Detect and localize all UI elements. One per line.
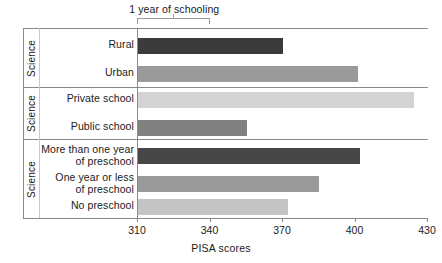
x-tick-label-310: 310	[117, 224, 157, 236]
bracket-right-leg	[209, 18, 210, 24]
x-tick-1	[210, 218, 211, 222]
panel-strip-text-1: Science	[26, 40, 37, 77]
x-tick-0	[137, 218, 138, 222]
bar-no-preschool[interactable]	[138, 199, 288, 215]
category-label-urban: Urban	[105, 67, 134, 79]
bar-private-school[interactable]	[138, 92, 414, 108]
bracket-center-tick	[173, 14, 174, 19]
x-tick-4	[427, 218, 428, 222]
category-label-private-school: Private school	[67, 93, 134, 105]
x-tick-2	[282, 218, 283, 222]
schooling-annotation-bracket	[137, 18, 210, 26]
bar-public-school[interactable]	[138, 120, 247, 136]
x-tick-3	[355, 218, 356, 222]
category-label-one-year-or-less-preschool: One year or less of preschool	[55, 172, 134, 195]
panel-divider-2	[23, 139, 428, 140]
category-label-no-preschool: No preschool	[71, 200, 134, 212]
panel-strip-text-3: Science	[26, 161, 37, 198]
panel-strip-label-2: Science	[23, 88, 40, 139]
category-label-public-school: Public school	[71, 121, 134, 133]
bar-rural[interactable]	[138, 38, 283, 54]
pisa-scores-bar-chart: 1 year of schooling Science Science Scie…	[0, 0, 442, 263]
bar-one-year-or-less-preschool[interactable]	[138, 176, 319, 192]
panel-strip-text-2: Science	[26, 95, 37, 132]
category-label-rural: Rural	[108, 39, 134, 51]
bar-urban[interactable]	[138, 66, 358, 82]
x-tick-label-370: 370	[262, 224, 302, 236]
category-label-more-than-one-year-preschool: More than one year of preschool	[41, 144, 134, 167]
panel-divider-1	[23, 87, 428, 88]
schooling-annotation-label: 1 year of schooling	[104, 3, 244, 15]
x-tick-label-430: 430	[407, 224, 442, 236]
x-axis-line	[23, 218, 428, 219]
panel-strip-label-1: Science	[23, 29, 40, 87]
bracket-left-leg	[137, 18, 138, 24]
bar-more-than-one-year-preschool[interactable]	[138, 148, 360, 164]
panel-strip-label-3: Science	[23, 140, 40, 218]
x-tick-label-340: 340	[190, 224, 230, 236]
x-tick-label-400: 400	[335, 224, 375, 236]
x-axis-title: PISA scores	[0, 242, 442, 254]
